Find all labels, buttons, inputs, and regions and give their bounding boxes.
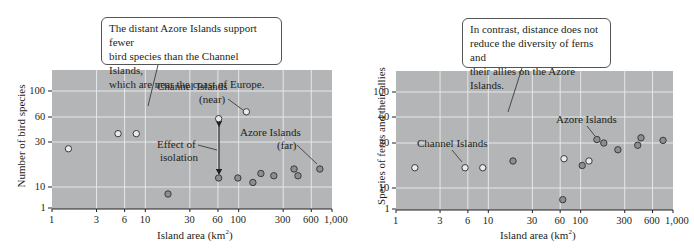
label-channel-islands: Channel Islands <box>417 137 488 149</box>
data-point-azore <box>594 136 600 142</box>
x-tick-label: 6 <box>465 215 470 226</box>
data-point-azore <box>510 158 516 164</box>
data-point-channel <box>586 158 592 164</box>
callout-line: their allies on the Azore Islands. <box>470 64 603 92</box>
x-tick-label: 1,000 <box>665 215 689 226</box>
x-axis-label: Island area (km2) <box>500 228 576 241</box>
x-tick-label: 3 <box>437 215 442 226</box>
data-point-azore <box>601 140 607 146</box>
callout-line: reduce the diversity of ferns and <box>470 36 603 64</box>
y-tick-label: 100 <box>373 86 389 97</box>
x-tick-label: 30 <box>527 215 538 226</box>
fern-species-chart: In contrast, distance does not reduce th… <box>0 0 694 250</box>
x-tick-label: 100 <box>572 215 588 226</box>
x-axis-label-end: ) <box>572 229 576 241</box>
fern-callout: In contrast, distance does not reduce th… <box>462 18 611 68</box>
y-tick-label: 1 <box>384 203 389 214</box>
data-point-channel <box>480 165 486 171</box>
data-point-azore <box>635 142 641 148</box>
data-point-azore <box>579 162 585 168</box>
data-point-channel <box>561 156 567 162</box>
data-point-channel <box>412 165 418 171</box>
x-tick-label: 1 <box>393 215 398 226</box>
data-point-azore <box>615 147 621 153</box>
y-tick-label: 60 <box>379 111 390 122</box>
x-tick-label: 600 <box>644 215 660 226</box>
x-tick-label: 300 <box>616 215 632 226</box>
data-point-azore <box>560 196 566 202</box>
y-tick-label: 10 <box>379 182 390 193</box>
data-point-azore <box>638 135 644 141</box>
data-point-azore <box>660 137 666 143</box>
x-tick-label: 60 <box>555 215 566 226</box>
data-point-channel <box>462 165 468 171</box>
callout-line: In contrast, distance does not <box>470 22 603 36</box>
x-axis-label-text: Island area (km <box>500 229 568 241</box>
label-azore-islands: Azore Islands <box>556 113 617 125</box>
x-tick-label: 10 <box>483 215 494 226</box>
y-tick-label: 30 <box>379 137 390 148</box>
